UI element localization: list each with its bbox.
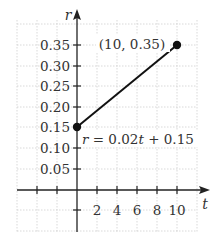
x-tick-label: 4 <box>113 202 122 218</box>
y-tick-label: 0.25 <box>40 78 70 94</box>
x-tick-label: 10 <box>168 202 185 218</box>
data-point-end <box>173 41 181 49</box>
y-tick-label: 0.15 <box>40 119 70 135</box>
y-tick-label: 0.20 <box>40 99 70 115</box>
x-tick-label: 6 <box>133 202 142 218</box>
point-annotation: (10, 0.35) <box>99 36 165 52</box>
equation-label: r = 0.02t + 0.15 <box>82 131 194 147</box>
x-tick-label: 8 <box>153 202 162 218</box>
y-tick-label: 0.35 <box>40 37 70 53</box>
y-axis-label: r <box>65 7 73 23</box>
y-tick-label: 0.05 <box>40 161 70 177</box>
y-tick-labels: 0.35 0.30 0.25 0.20 0.15 0.10 0.05 <box>40 37 70 177</box>
line-chart: 0.35 0.30 0.25 0.20 0.15 0.10 0.05 2 4 6… <box>0 0 219 244</box>
x-tick-labels: 2 4 6 8 10 <box>93 202 186 218</box>
data-point-start <box>73 123 81 131</box>
x-axis-label: t <box>202 196 208 212</box>
y-tick-label: 0.10 <box>40 140 70 156</box>
x-tick-label: 2 <box>93 202 102 218</box>
y-tick-label: 0.30 <box>40 58 70 74</box>
